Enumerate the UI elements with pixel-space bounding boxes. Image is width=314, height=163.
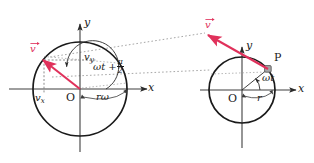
- left-radius-label: rω: [96, 92, 109, 102]
- point-p-label: P: [274, 52, 281, 63]
- left-velocity-vector-label: v: [30, 44, 36, 54]
- connector-line-upper: [50, 33, 205, 57]
- angle-fraction: π2: [117, 58, 124, 75]
- right-velocity-vector: [208, 35, 268, 69]
- left-y-axis-label: y: [84, 17, 90, 28]
- left-x-axis-label: x: [148, 82, 154, 93]
- left-angle-label: ωt +π2: [93, 58, 124, 75]
- right-y-axis-label: y: [246, 40, 252, 51]
- left-lower-chord: [82, 83, 127, 88]
- right-radius-label: r: [257, 93, 262, 103]
- right-angle-label: ωt: [262, 73, 274, 83]
- right-x-axis-label: x: [298, 83, 304, 94]
- left-vx-label: vx: [35, 93, 45, 104]
- left-radius-arc-tick-start: [80, 95, 85, 99]
- right-angle-arc: [256, 79, 261, 91]
- right-velocity-vector-label: v: [205, 20, 211, 30]
- left-radius-arc-tick-end: [123, 89, 127, 94]
- left-velocity-vector: [43, 60, 80, 89]
- right-inner-chord: [211, 72, 266, 74]
- right-origin-label: O: [228, 93, 237, 104]
- panel-connector-lines: [50, 33, 210, 77]
- connector-line-lower: [52, 70, 210, 77]
- left-origin-label: O: [66, 92, 75, 103]
- physics-figure-circular-motion: y x O v vx vy ωt +π2 rω y x O v P ωt r: [0, 0, 314, 163]
